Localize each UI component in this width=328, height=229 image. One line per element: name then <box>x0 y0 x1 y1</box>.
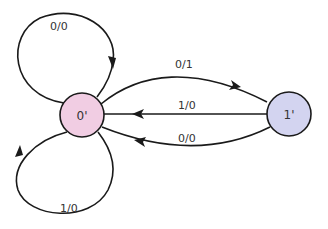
state-label-0: 0' <box>77 109 88 123</box>
edge-label-0-1: 0/1 <box>175 58 193 71</box>
edge-s1-to-s0-straight: 1/0 <box>104 99 267 119</box>
edge-label-bottom-loop: 1/0 <box>60 202 78 215</box>
edge-s1-to-s0-curved: 0/0 <box>102 127 270 147</box>
edge-label-1-0: 1/0 <box>178 99 196 112</box>
edge-self-loop-top: 0/0 <box>18 13 116 103</box>
state-label-1: 1' <box>284 108 295 122</box>
arrowhead-icon <box>15 145 23 157</box>
state-diagram: 0/0 1/0 0/1 1/0 0/0 0' 1' <box>0 0 328 229</box>
edge-s0-to-s1: 0/1 <box>101 58 267 104</box>
state-node-1: 1' <box>267 92 311 136</box>
edge-label-0-0: 0/0 <box>178 132 196 145</box>
edge-label-top-loop: 0/0 <box>50 20 68 33</box>
arrowhead-icon <box>229 80 241 90</box>
edge-self-loop-bottom: 1/0 <box>15 132 113 215</box>
state-node-0: 0' <box>60 93 104 137</box>
